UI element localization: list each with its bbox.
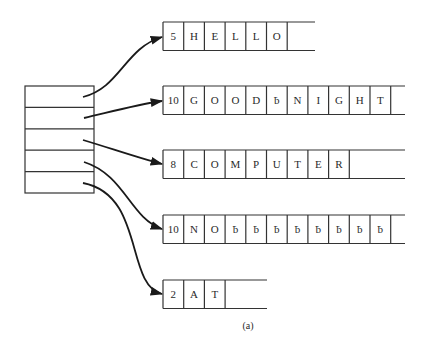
- arrow-to-string-4: [84, 162, 162, 229]
- length-cell: 2: [171, 288, 177, 300]
- char-cell: N: [190, 223, 198, 235]
- char-cell: H: [190, 30, 198, 42]
- blank-cell: ƀ: [232, 223, 239, 235]
- length-cell: 10: [168, 94, 180, 106]
- char-cell: T: [211, 288, 218, 300]
- char-cell: L: [253, 30, 260, 42]
- blank-cell: ƀ: [273, 94, 280, 106]
- char-cell: U: [273, 158, 281, 170]
- string-record: 10GOODƀNIGHT: [163, 86, 405, 115]
- char-cell: R: [335, 158, 343, 170]
- blank-cell: ƀ: [273, 223, 280, 235]
- string-record: 5HELLO: [163, 22, 315, 51]
- char-cell: G: [335, 94, 343, 106]
- length-cell: 8: [171, 158, 177, 170]
- char-cell: O: [211, 223, 219, 235]
- string-record: 2AT: [163, 280, 267, 309]
- char-cell: O: [211, 94, 219, 106]
- char-cell: O: [273, 30, 281, 42]
- arrow-to-string-1: [83, 37, 162, 97]
- char-cell: P: [253, 158, 259, 170]
- length-cell: 5: [171, 30, 177, 42]
- pointer-arrows: [83, 37, 162, 294]
- blank-cell: ƀ: [377, 223, 384, 235]
- char-cell: O: [211, 158, 219, 170]
- figure-caption: (a): [242, 320, 253, 332]
- blank-cell: ƀ: [315, 223, 322, 235]
- blank-cell: ƀ: [356, 223, 363, 235]
- blank-cell: ƀ: [294, 223, 301, 235]
- char-cell: O: [231, 94, 239, 106]
- char-cell: L: [232, 30, 239, 42]
- arrow-to-string-2: [84, 101, 162, 118]
- char-cell: C: [190, 158, 197, 170]
- string-record: 10NOƀƀƀƀƀƀƀƀ: [163, 215, 405, 244]
- char-cell: H: [356, 94, 364, 106]
- char-cell: N: [294, 94, 302, 106]
- char-cell: T: [294, 158, 301, 170]
- char-cell: G: [190, 94, 198, 106]
- char-cell: D: [252, 94, 260, 106]
- arrow-to-string-5: [83, 183, 162, 294]
- blank-cell: ƀ: [252, 223, 259, 235]
- char-cell: T: [377, 94, 384, 106]
- length-cell: 10: [168, 223, 180, 235]
- char-cell: A: [190, 288, 198, 300]
- char-cell: E: [211, 30, 218, 42]
- char-cell: I: [316, 94, 320, 106]
- string-pointer-diagram: 5HELLO10GOODƀNIGHT8COMPUTER10NOƀƀƀƀƀƀƀƀ2…: [0, 0, 428, 347]
- string-record: 8COMPUTER: [163, 150, 405, 179]
- blank-cell: ƀ: [335, 223, 342, 235]
- char-cell: M: [231, 158, 241, 170]
- char-cell: E: [315, 158, 322, 170]
- arrow-to-string-3: [83, 140, 162, 164]
